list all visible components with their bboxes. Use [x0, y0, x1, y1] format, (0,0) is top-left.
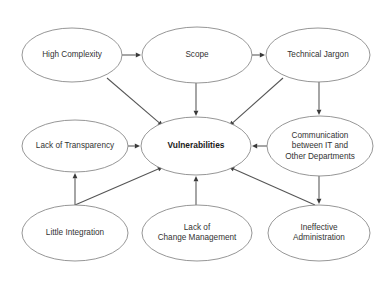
arrow-head-icon	[317, 199, 322, 204]
node-ineffective-administration[interactable]: IneffectiveAdministration	[268, 205, 370, 261]
nodes-layer: High ComplexityScopeTechnical JargonLack…	[22, 27, 373, 261]
node-label-little-integration: Little Integration	[46, 228, 105, 237]
diagram-canvas: High ComplexityScopeTechnical JargonLack…	[0, 0, 390, 284]
node-scope[interactable]: Scope	[142, 27, 252, 83]
node-label-ineffective-administration: Administration	[293, 233, 345, 242]
node-label-scope: Scope	[185, 50, 209, 59]
vulnerabilities-diagram: High ComplexityScopeTechnical JargonLack…	[0, 0, 390, 284]
node-label-communication-it: Communication	[292, 131, 349, 140]
edge-lack-of-change-management-to-vulnerabilities	[194, 176, 199, 205]
node-label-communication-it: between IT and	[292, 141, 349, 150]
node-lack-of-transparency[interactable]: Lack of Transparency	[22, 120, 128, 172]
node-high-complexity[interactable]: High Complexity	[22, 28, 122, 82]
edge-scope-to-technical-jargon	[252, 53, 265, 58]
node-label-vulnerabilities: Vulnerabilities	[168, 140, 225, 150]
arrow-head-icon	[252, 144, 257, 149]
node-label-ineffective-administration: Ineffective	[300, 223, 338, 232]
arrow-head-icon	[136, 53, 141, 58]
node-vulnerabilities[interactable]: Vulnerabilities	[141, 117, 251, 175]
arrow-head-icon	[317, 110, 322, 115]
edge-high-complexity-to-scope	[122, 53, 141, 58]
node-label-technical-jargon: Technical Jargon	[287, 50, 349, 59]
edge-high-complexity-to-vulnerabilities	[107, 78, 163, 126]
node-label-lack-of-change-management: Change Management	[158, 233, 237, 242]
arrow-head-icon	[260, 53, 265, 58]
node-lack-of-change-management[interactable]: Lack ofChange Management	[142, 205, 252, 261]
node-label-lack-of-change-management: Lack of	[184, 223, 211, 232]
edge-lack-of-transparency-to-vulnerabilities	[128, 144, 140, 149]
edge-communication-it-to-vulnerabilities	[252, 144, 267, 149]
node-label-high-complexity: High Complexity	[42, 50, 103, 59]
arrow-head-icon	[135, 144, 140, 149]
node-label-communication-it: Other Departments	[285, 152, 355, 161]
edge-technical-jargon-to-communication-it	[317, 82, 322, 115]
arrow-head-icon	[194, 176, 199, 181]
arrow-head-icon	[194, 111, 199, 116]
node-technical-jargon[interactable]: Technical Jargon	[266, 28, 370, 82]
edge-line	[107, 78, 159, 123]
edge-little-integration-to-lack-of-transparency	[73, 173, 78, 205]
edge-communication-it-to-ineffective-administration	[317, 176, 322, 204]
node-label-lack-of-transparency: Lack of Transparency	[36, 141, 115, 150]
edge-scope-to-vulnerabilities	[194, 83, 199, 116]
edge-line	[75, 169, 158, 205]
edge-technical-jargon-to-vulnerabilities	[229, 78, 283, 126]
edge-line	[233, 78, 283, 123]
edge-little-integration-to-vulnerabilities	[75, 167, 163, 205]
node-little-integration[interactable]: Little Integration	[22, 205, 128, 261]
node-communication-it[interactable]: Communicationbetween IT andOther Departm…	[267, 116, 373, 176]
arrow-head-icon	[73, 173, 78, 178]
